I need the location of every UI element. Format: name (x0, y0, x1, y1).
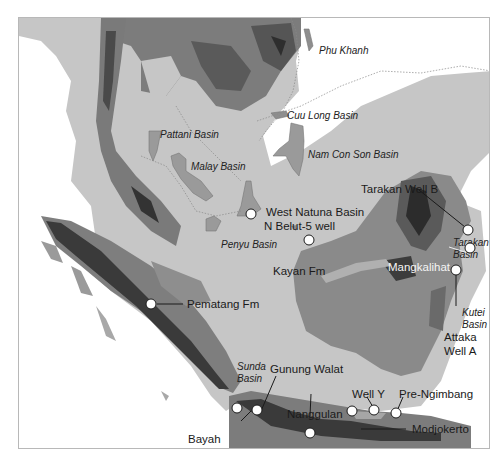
site-marker-pre-ngimbang[interactable] (391, 408, 402, 419)
label-nanggulan: Nanggulan (287, 408, 343, 421)
site-marker-nanggulan[interactable] (305, 428, 316, 439)
label-west-natuna-basin: West Natuna Basin (266, 206, 364, 219)
map-frame: Phu Khanh Pattani Basin Cuu Long Basin M… (18, 17, 490, 449)
site-marker-well-y[interactable] (369, 405, 380, 416)
site-marker-modjokerto[interactable] (347, 406, 358, 417)
label-penyu-basin: Penyu Basin (221, 238, 277, 251)
label-bayah: Bayah (188, 433, 221, 446)
label-phu-khanh: Phu Khanh (319, 44, 369, 57)
label-pematang-fm: Pematang Fm (187, 298, 259, 311)
label-pattani-basin: Pattani Basin (160, 128, 219, 141)
site-marker-tarakan-well-b[interactable] (463, 225, 474, 236)
site-marker-gunung-walat[interactable] (252, 405, 263, 416)
site-marker-bayah[interactable] (232, 403, 243, 414)
site-marker-mangkalihat[interactable] (465, 243, 476, 254)
site-marker-kayan-fm[interactable] (304, 235, 315, 246)
label-mangkalihat: Mangkalihat (388, 261, 450, 274)
label-gunung-walat: Gunung Walat (270, 363, 343, 376)
label-sunda-basin-2: Basin (237, 372, 262, 385)
label-kayan-fm: Kayan Fm (273, 265, 325, 278)
label-tarakan-well-b: Tarakan Well B (361, 183, 438, 196)
label-n-belut-5-well: N Belut-5 well (264, 220, 335, 233)
site-marker-n-belut-5-well[interactable] (246, 209, 257, 220)
label-kutei-basin-2: Basin (462, 318, 487, 331)
label-nam-con-son-basin: Nam Con Son Basin (308, 148, 399, 161)
label-well-y: Well Y (352, 388, 385, 401)
label-attaka-well-a-2: Well A (444, 345, 476, 358)
label-pre-ngimbang: Pre-Ngimbang (399, 388, 473, 401)
label-modjokerto: Modjokerto (412, 423, 469, 436)
site-marker-pematang-fm[interactable] (146, 299, 157, 310)
label-malay-basin: Malay Basin (191, 160, 245, 173)
label-attaka-well-a-1: Attaka (444, 331, 477, 344)
site-marker-attaka-well-a[interactable] (451, 265, 462, 276)
label-cuu-long-basin: Cuu Long Basin (287, 109, 358, 122)
